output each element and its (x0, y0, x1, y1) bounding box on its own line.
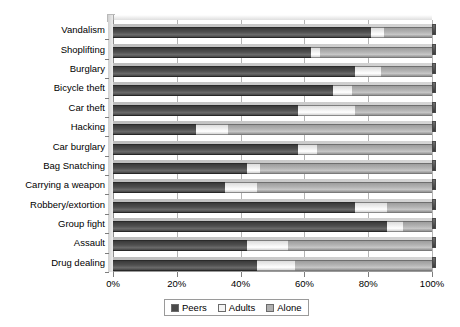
bar-end-cap (432, 257, 436, 268)
bar-segment-adults (371, 27, 384, 38)
bar-segment-adults (311, 47, 321, 58)
bar-segment-peers (113, 163, 247, 174)
bar-top-shade (113, 82, 432, 85)
bar-top-shade (113, 121, 432, 124)
y-axis-label: Drug dealing (0, 257, 105, 268)
bar-segment-peers (113, 182, 225, 193)
bar-segment-alone (352, 85, 432, 96)
bar-segment-adults (225, 182, 257, 193)
y-axis-tick (105, 78, 109, 79)
bar-stack-vandalism (113, 27, 432, 38)
x-axis-tick (432, 272, 433, 277)
bar-row (113, 240, 432, 251)
y-axis-label: Assault (0, 237, 105, 248)
bar-segment-alone (355, 105, 432, 116)
bar-segment-alone (384, 27, 432, 38)
bar-segment-peers (113, 202, 355, 213)
y-axis-label: Group fight (0, 218, 105, 229)
x-axis-label: 100% (412, 278, 452, 289)
bar-segment-peers (113, 221, 387, 232)
legend-label-peers: Peers (182, 302, 207, 313)
bar-stack-car-burglary (113, 144, 432, 155)
bar-stack-drug-dealing (113, 260, 432, 271)
plot-area (113, 20, 432, 272)
x-axis-tick (304, 272, 305, 277)
y-axis-label: Carrying a weapon (0, 179, 105, 190)
x-axis-tick (368, 272, 369, 277)
bar-top-shade (113, 160, 432, 163)
y-axis-label: Bag Snatching (0, 160, 105, 171)
bar-segment-adults (355, 202, 387, 213)
bar-stack-car-theft (113, 105, 432, 116)
bar-segment-peers (113, 47, 311, 58)
bar-segment-adults (257, 260, 295, 271)
legend-swatch-adults-icon (218, 304, 226, 312)
legend-item-alone: Alone (266, 302, 301, 313)
bar-segment-alone (228, 124, 432, 135)
bar-segment-peers (113, 260, 257, 271)
bar-row (113, 124, 432, 135)
bar-end-cap (432, 160, 436, 171)
x-axis-label: 20% (157, 278, 197, 289)
bar-row (113, 105, 432, 116)
bar-segment-adults (247, 163, 260, 174)
y-axis-label: Bicycle theft (0, 82, 105, 93)
bar-segment-alone (387, 202, 432, 213)
y-axis-tick (105, 272, 109, 273)
bar-segment-adults (298, 105, 355, 116)
x-axis-label: 0% (93, 278, 133, 289)
bar-row (113, 85, 432, 96)
bar-top-shade (113, 102, 432, 105)
bar-segment-alone (288, 240, 432, 251)
y-axis-label: Robbery/extortion (0, 199, 105, 210)
y-axis-tick (105, 59, 109, 60)
bar-segment-peers (113, 85, 333, 96)
y-axis-label: Hacking (0, 121, 105, 132)
x-axis-tick (177, 272, 178, 277)
y-axis-label: Car theft (0, 102, 105, 113)
y-axis-tick (105, 194, 109, 195)
stacked-bar-chart: VandalismShopliftingBurglaryBicycle thef… (0, 0, 460, 327)
bar-end-cap (432, 63, 436, 74)
bar-segment-alone (260, 163, 432, 174)
bar-end-cap (432, 102, 436, 113)
bar-end-cap (432, 82, 436, 93)
bar-segment-alone (295, 260, 432, 271)
bar-segment-alone (320, 47, 432, 58)
x-axis-label: 40% (221, 278, 261, 289)
legend-swatch-peers-icon (171, 304, 179, 312)
bar-segment-peers (113, 105, 298, 116)
y-axis-label: Vandalism (0, 24, 105, 35)
bar-end-cap (432, 237, 436, 248)
bar-segment-adults (355, 66, 381, 77)
bar-row (113, 47, 432, 58)
bar-segment-adults (333, 85, 352, 96)
bar-top-shade (113, 141, 432, 144)
bar-segment-adults (196, 124, 228, 135)
bar-top-shade (113, 199, 432, 202)
y-axis-label: Burglary (0, 63, 105, 74)
legend-label-adults: Adults (229, 302, 255, 313)
bar-stack-robbery-extortion (113, 202, 432, 213)
y-axis-tick (105, 98, 109, 99)
y-axis-tick (105, 214, 109, 215)
y-axis-label: Car burglary (0, 141, 105, 152)
bar-top-shade (113, 63, 432, 66)
y-axis-tick (105, 39, 109, 40)
bar-segment-alone (257, 182, 432, 193)
bar-top-shade (113, 237, 432, 240)
legend-label-alone: Alone (277, 302, 301, 313)
bar-segment-alone (403, 221, 432, 232)
legend-item-peers: Peers (171, 302, 207, 313)
bar-row (113, 163, 432, 174)
bar-stack-burglary (113, 66, 432, 77)
bar-stack-assault (113, 240, 432, 251)
bar-end-cap (432, 121, 436, 132)
bar-stack-carrying-a-weapon (113, 182, 432, 193)
x-axis-label: 80% (348, 278, 388, 289)
y-axis-labels: VandalismShopliftingBurglaryBicycle thef… (0, 20, 105, 272)
bar-segment-peers (113, 27, 371, 38)
bar-row (113, 202, 432, 213)
bar-end-cap (432, 218, 436, 229)
bar-row (113, 27, 432, 38)
